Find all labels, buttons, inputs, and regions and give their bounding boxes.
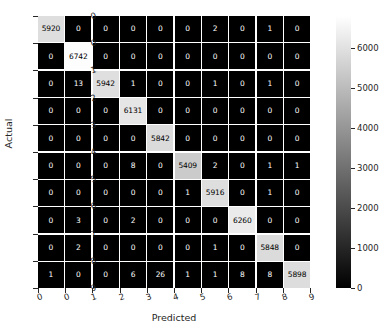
cell-value: 0 bbox=[49, 135, 54, 143]
cell-value: 1 bbox=[267, 189, 272, 197]
cell-value: 0 bbox=[158, 25, 163, 33]
heatmap-cell: 0 bbox=[147, 43, 173, 69]
heatmap-cell: 0 bbox=[229, 71, 255, 97]
cell-value: 5409 bbox=[178, 162, 197, 170]
x-tick-mark bbox=[201, 288, 202, 293]
cell-value: 0 bbox=[185, 53, 190, 61]
heatmap-cell: 1 bbox=[257, 153, 283, 179]
cell-value: 1 bbox=[267, 162, 272, 170]
heatmap-cell: 0 bbox=[229, 180, 255, 206]
cell-value: 0 bbox=[295, 25, 300, 33]
x-tick-label: 0 bbox=[27, 288, 53, 305]
colorbar-tick-mark bbox=[351, 248, 355, 249]
x-tick-label: 0 bbox=[54, 288, 80, 305]
cell-value: 0 bbox=[131, 244, 136, 252]
cell-value: 0 bbox=[49, 244, 54, 252]
x-tick-mark bbox=[228, 288, 229, 293]
cell-value: 0 bbox=[295, 244, 300, 252]
cell-value: 8 bbox=[240, 271, 245, 279]
heatmap-cell: 0 bbox=[229, 125, 255, 151]
cell-value: 0 bbox=[103, 244, 108, 252]
x-tick-label: 5 bbox=[190, 288, 216, 305]
cell-value: 0 bbox=[267, 53, 272, 61]
cell-value: 2 bbox=[213, 162, 218, 170]
x-tick-label: 7 bbox=[244, 288, 270, 305]
cell-value: 0 bbox=[103, 189, 108, 197]
x-tick-label: 3 bbox=[135, 288, 161, 305]
cell-value: 0 bbox=[131, 53, 136, 61]
heatmap-cell: 0 bbox=[175, 43, 201, 69]
heatmap-cell: 0 bbox=[147, 16, 173, 42]
heatmap-cell: 0 bbox=[175, 207, 201, 233]
cell-value: 0 bbox=[295, 53, 300, 61]
x-tick-mark bbox=[65, 288, 66, 293]
cell-value: 0 bbox=[49, 107, 54, 115]
x-tick-mark bbox=[147, 288, 148, 293]
y-tick-mark bbox=[33, 43, 38, 44]
heatmap-cell: 0 bbox=[257, 207, 283, 233]
cell-value: 0 bbox=[295, 80, 300, 88]
heatmap-cell: 1 bbox=[202, 71, 228, 97]
colorbar-tick-label: 3000 bbox=[357, 163, 379, 173]
cell-value: 0 bbox=[76, 135, 81, 143]
cell-value: 6131 bbox=[124, 107, 143, 115]
cell-value: 0 bbox=[267, 135, 272, 143]
cell-value: 0 bbox=[131, 135, 136, 143]
cell-value: 1 bbox=[213, 244, 218, 252]
y-tick-mark bbox=[33, 206, 38, 207]
y-tick-mark bbox=[33, 152, 38, 153]
cell-value: 0 bbox=[240, 25, 245, 33]
cell-value: 2 bbox=[76, 244, 81, 252]
heatmap-cell: 0 bbox=[284, 16, 310, 42]
x-tick-label: 4 bbox=[163, 288, 189, 305]
cell-value: 0 bbox=[131, 189, 136, 197]
x-tick-mark bbox=[120, 288, 121, 293]
cell-value: 2 bbox=[131, 217, 136, 225]
heatmap-cell: 0 bbox=[175, 98, 201, 124]
x-tick-label: 9 bbox=[299, 288, 325, 305]
cell-value: 0 bbox=[240, 53, 245, 61]
heatmap-cell: 1 bbox=[257, 180, 283, 206]
cell-value: 0 bbox=[131, 25, 136, 33]
cell-value: 0 bbox=[240, 80, 245, 88]
heatmap-cell: 8 bbox=[257, 262, 283, 288]
heatmap-cell: 0 bbox=[175, 125, 201, 151]
cell-value: 0 bbox=[240, 135, 245, 143]
cell-value: 0 bbox=[213, 217, 218, 225]
heatmap-cell: 0 bbox=[229, 153, 255, 179]
heatmap-cell: 0 bbox=[175, 71, 201, 97]
x-tick-mark bbox=[92, 288, 93, 293]
y-tick-mark bbox=[33, 234, 38, 235]
heatmap-cell: 2 bbox=[120, 207, 146, 233]
cell-value: 8 bbox=[267, 271, 272, 279]
cell-value: 1 bbox=[295, 162, 300, 170]
cell-value: 0 bbox=[213, 53, 218, 61]
heatmap-cell: 8 bbox=[229, 262, 255, 288]
cell-value: 1 bbox=[267, 80, 272, 88]
heatmap-cell: 0 bbox=[257, 125, 283, 151]
x-tick-mark bbox=[283, 288, 284, 293]
heatmap-cell: 0 bbox=[175, 16, 201, 42]
heatmap-cell: 0 bbox=[175, 235, 201, 261]
confusion-matrix-figure: 5920000002010067420000000001359421001010… bbox=[0, 0, 392, 331]
x-tick-mark bbox=[310, 288, 311, 293]
cell-value: 0 bbox=[267, 217, 272, 225]
y-tick-mark bbox=[33, 125, 38, 126]
cell-value: 0 bbox=[158, 107, 163, 115]
x-tick-mark bbox=[38, 288, 39, 293]
cell-value: 0 bbox=[185, 107, 190, 115]
colorbar-tick-mark bbox=[351, 288, 355, 289]
colorbar-tick-label: 6000 bbox=[357, 43, 379, 53]
heatmap-cell: 2 bbox=[202, 153, 228, 179]
cell-value: 0 bbox=[158, 80, 163, 88]
cell-value: 5898 bbox=[288, 271, 307, 279]
heatmap-cell: 0 bbox=[147, 180, 173, 206]
heatmap-cell: 0 bbox=[93, 153, 119, 179]
heatmap-cell: 1 bbox=[202, 235, 228, 261]
heatmap-cell: 0 bbox=[229, 43, 255, 69]
cell-value: 0 bbox=[185, 25, 190, 33]
heatmap-cell: 8 bbox=[120, 153, 146, 179]
heatmap-cell: 0 bbox=[257, 43, 283, 69]
heatmap-cell: 0 bbox=[120, 235, 146, 261]
cell-value: 0 bbox=[158, 189, 163, 197]
